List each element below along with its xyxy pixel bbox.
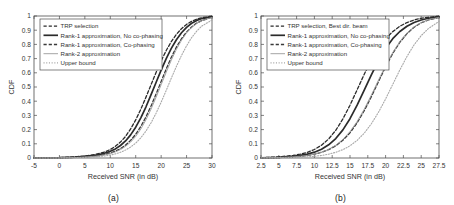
y-tick-label: 0.6 [249, 69, 258, 76]
y-tick-label: 0.4 [249, 98, 258, 105]
x-axis-label: Received SNR (in dB) [88, 172, 158, 181]
x-tick-label: -5 [31, 162, 37, 169]
legend-label-1: Rank-1 approximation, No co-phasing [288, 32, 390, 39]
subplot-b-caption: (b) [227, 193, 454, 203]
y-tick-label: 0.5 [22, 83, 31, 90]
x-tick-label: 10 [311, 162, 319, 169]
x-tick-label: 15 [346, 162, 354, 169]
y-tick-label: 0.7 [22, 55, 31, 62]
y-axis-label: CDF [7, 79, 16, 94]
y-tick-label: 0.3 [22, 112, 31, 119]
x-tick-label: 27.5 [433, 162, 446, 169]
x-tick-label: 17.5 [361, 162, 374, 169]
y-tick-label: 0 [254, 154, 258, 161]
subplot-a: -505101520253000.10.20.30.40.50.60.70.80… [0, 0, 227, 205]
y-axis-label: CDF [234, 79, 243, 94]
subplot-a-caption: (a) [0, 193, 227, 203]
x-tick-label: 20 [382, 162, 390, 169]
x-tick-label: 25 [183, 162, 191, 169]
subplot-b: 2.557.51012.51517.52022.52527.500.10.20.… [227, 0, 454, 205]
x-tick-label: 7.5 [292, 162, 301, 169]
x-tick-label: 5 [83, 162, 87, 169]
legend-label-0: TRP selection [61, 22, 99, 29]
x-axis-label: Received SNR (in dB) [315, 172, 385, 181]
y-tick-label: 0.9 [249, 27, 258, 34]
x-tick-label: 30 [208, 162, 216, 169]
cdf-plot-b: 2.557.51012.51517.52022.52527.500.10.20.… [227, 0, 454, 205]
cdf-plot-a: -505101520253000.10.20.30.40.50.60.70.80… [0, 0, 227, 205]
legend-label-0: TRP selection, Best dir. beam [288, 22, 368, 29]
y-tick-label: 0.4 [22, 98, 31, 105]
figure-two-cdf-subplots: -505101520253000.10.20.30.40.50.60.70.80… [0, 0, 454, 205]
legend-label-1: Rank-1 approximation, No co-phasing [61, 32, 163, 39]
y-tick-label: 0.8 [249, 41, 258, 48]
y-tick-label: 0.9 [22, 27, 31, 34]
y-tick-label: 0.1 [22, 140, 31, 147]
legend-label-4: Upper bound [288, 59, 323, 66]
x-tick-label: 22.5 [397, 162, 410, 169]
x-tick-label: 20 [157, 162, 165, 169]
x-tick-label: 12.5 [326, 162, 339, 169]
y-tick-label: 0.8 [22, 41, 31, 48]
x-tick-label: 25 [418, 162, 426, 169]
y-tick-label: 0.3 [249, 112, 258, 119]
x-tick-label: 0 [58, 162, 62, 169]
legend-label-4: Upper bound [61, 59, 96, 66]
y-tick-label: 0.1 [249, 140, 258, 147]
legend-label-2: Rank-1 approximation, Co-phasing [61, 41, 155, 48]
legend-label-3: Rank-2 approximation [61, 50, 121, 57]
x-tick-label: 2.5 [256, 162, 265, 169]
y-tick-label: 0.6 [22, 69, 31, 76]
y-tick-label: 0.5 [249, 83, 258, 90]
y-tick-label: 0.2 [249, 126, 258, 133]
x-tick-label: 5 [277, 162, 281, 169]
y-tick-label: 0.2 [22, 126, 31, 133]
legend-label-2: Rank-1 approximation, Co-phasing [288, 41, 382, 48]
x-tick-label: 15 [132, 162, 140, 169]
x-tick-label: 10 [107, 162, 115, 169]
y-tick-label: 0 [27, 154, 31, 161]
y-tick-label: 0.7 [249, 55, 258, 62]
y-tick-label: 1 [254, 12, 258, 19]
y-tick-label: 1 [27, 12, 31, 19]
legend-label-3: Rank-2 approximation [288, 50, 348, 57]
